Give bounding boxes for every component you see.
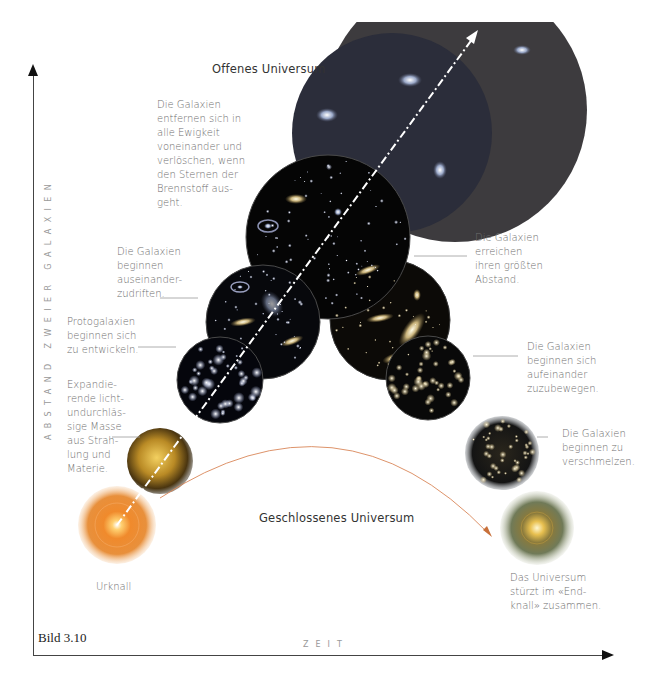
annotation-opaque-mass: Expandie- rende licht- undurchläs- sige … [67,378,126,476]
annotation-big-bang: Urknall [96,580,131,594]
annotation-protogalaxies: Protogalaxien beginnen sich zu entwickel… [67,315,139,357]
annotation-merge: Die Galaxien beginnen zu verschmelzen. [562,427,635,469]
sphere-endknall [500,491,574,565]
title-open-universe: Offenes Universum [212,62,326,76]
annotation-big-crunch: Das Universum stürzt im «End- knall» zus… [510,571,601,613]
closed-curve-arrow-icon [483,526,492,537]
annotation-approach: Die Galaxien beginnen sich aufeinander z… [527,340,599,396]
annotation-open-end: Die Galaxien entfernen sich in alle Ewig… [157,98,245,210]
annotation-max-distance: Die Galaxien erreichen ihren größten Abs… [475,231,543,287]
title-closed-universe: Geschlossenes Universum [259,511,414,525]
annotation-drift-apart: Die Galaxien beginnen auseinander- zudri… [117,245,182,301]
